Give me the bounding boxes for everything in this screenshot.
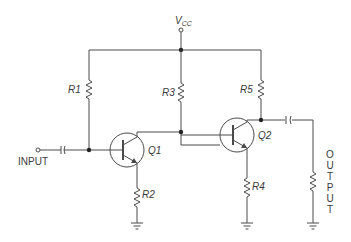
r2-label: R2 <box>142 189 155 200</box>
svg-text:U: U <box>326 160 333 171</box>
resistor-r2: R2 <box>134 163 155 223</box>
junction-dot-q1-collector <box>179 130 183 134</box>
transistor-q2-icon: Q2 <box>220 118 272 152</box>
resistor-r1: R1 <box>68 50 92 150</box>
svg-text:O: O <box>326 149 334 160</box>
ground-icon-output <box>307 223 319 229</box>
input-label: INPUT <box>18 156 48 167</box>
vcc-label: VCC <box>175 15 193 27</box>
r4-label: R4 <box>252 181 265 192</box>
input-section: INPUT <box>18 146 110 167</box>
r5-label: R5 <box>240 84 253 95</box>
vcc-supply: VCC <box>175 15 193 50</box>
resistor-r4: R4 <box>244 148 265 223</box>
svg-text:U: U <box>326 193 333 204</box>
svg-text:T: T <box>327 204 333 215</box>
svg-text:P: P <box>327 182 334 193</box>
output-load-resistor <box>310 120 316 223</box>
vcc-terminal-icon <box>179 28 183 32</box>
ground-icon-q1 <box>131 223 143 229</box>
junction-dot-q1-base <box>87 148 91 152</box>
resistor-r5: R5 <box>240 50 264 120</box>
q1-label: Q1 <box>148 145 161 156</box>
ground-icon-q2 <box>241 223 253 229</box>
q2-label: Q2 <box>258 130 272 141</box>
input-terminal-icon <box>36 148 40 152</box>
r1-label: R1 <box>68 84 81 95</box>
junction-dot-q2-collector <box>259 118 263 122</box>
transistor-q1-icon: Q1 <box>110 132 161 167</box>
output-label: O U T P U T <box>326 149 334 215</box>
output-capacitor-icon <box>285 115 292 125</box>
circuit-schematic: VCC R1 R3 R5 INPUT <box>0 0 351 242</box>
r3-label: R3 <box>162 87 175 98</box>
svg-text:T: T <box>327 171 333 182</box>
